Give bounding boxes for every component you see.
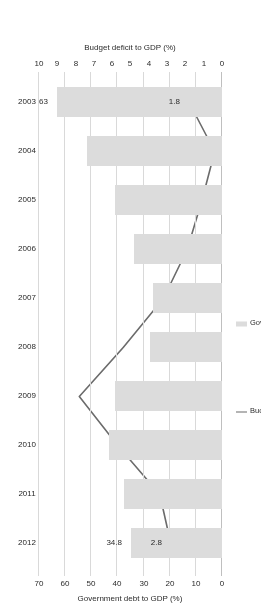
- data-label-budget-deficit-2012: 2.8: [151, 539, 162, 548]
- combo-chart: Government debt to GDP (%) Budget defici…: [0, 0, 261, 606]
- data-label-government-debt-2012: 34.8: [106, 539, 122, 548]
- tick-government-debt-10: 10: [191, 580, 200, 589]
- data-label-budget-deficit-2003: 1.8: [169, 98, 180, 107]
- tick-budget-deficit-10: 10: [35, 60, 44, 69]
- bar-2004: [87, 137, 222, 167]
- category-label-2008: 2008: [18, 343, 36, 352]
- category-label-2009: 2009: [18, 392, 36, 401]
- bar-2009: [115, 382, 222, 412]
- tick-budget-deficit-2: 2: [183, 60, 187, 69]
- data-label-government-debt-2003: 63: [39, 98, 48, 107]
- tick-budget-deficit-8: 8: [73, 60, 77, 69]
- legend-label-government-debt: Government debt to GDP (%): [250, 319, 261, 328]
- legend-line-icon: [236, 411, 247, 412]
- legend-swatch-bar-icon: [236, 321, 247, 326]
- category-label-2010: 2010: [18, 441, 36, 450]
- category-label-2011: 2011: [18, 490, 35, 499]
- tick-budget-deficit-7: 7: [92, 60, 96, 69]
- legend-entry-budget-deficit: Budget deficit to GDP (%): [236, 407, 261, 416]
- category-label-2005: 2005: [18, 196, 36, 205]
- bar-2006: [134, 235, 222, 265]
- category-label-2006: 2006: [18, 245, 36, 254]
- category-label-2004: 2004: [18, 147, 36, 156]
- tick-government-debt-0: 0: [220, 580, 224, 589]
- tick-government-debt-60: 60: [61, 580, 70, 589]
- bar-2005: [115, 186, 222, 216]
- chart-screenshot: Government debt to GDP (%) Budget defici…: [0, 0, 261, 606]
- category-label-2003: 2003: [18, 98, 36, 107]
- tick-budget-deficit-5: 5: [128, 60, 132, 69]
- tick-budget-deficit-6: 6: [110, 60, 114, 69]
- bar-2012: [131, 529, 222, 559]
- bar-2007: [153, 284, 222, 314]
- tick-government-debt-50: 50: [87, 580, 96, 589]
- bar-2010: [109, 431, 222, 461]
- tick-budget-deficit-4: 4: [147, 60, 151, 69]
- bar-2008: [150, 333, 222, 363]
- tick-government-debt-70: 70: [35, 580, 44, 589]
- category-label-2007: 2007: [18, 294, 36, 303]
- axis-title-government-debt: Government debt to GDP (%): [78, 595, 183, 604]
- rotated-chart-wrapper: Government debt to GDP (%) Budget defici…: [0, 0, 261, 606]
- gridline: [64, 72, 65, 576]
- tick-budget-deficit-3: 3: [165, 60, 169, 69]
- bar-2011: [124, 480, 222, 510]
- tick-government-debt-40: 40: [113, 580, 122, 589]
- tick-government-debt-30: 30: [139, 580, 148, 589]
- axis-title-budget-deficit: Budget deficit to GDP (%): [85, 44, 176, 53]
- legend-entry-government-debt: Government debt to GDP (%): [236, 319, 261, 328]
- plot-area: [39, 78, 222, 568]
- bar-2003: [57, 88, 222, 118]
- tick-government-debt-20: 20: [165, 580, 174, 589]
- tick-budget-deficit-9: 9: [55, 60, 59, 69]
- tick-budget-deficit-1: 1: [201, 60, 205, 69]
- gridline: [38, 72, 39, 576]
- category-label-2012: 2012: [18, 539, 36, 548]
- tick-budget-deficit-0: 0: [220, 60, 224, 69]
- legend-label-budget-deficit: Budget deficit to GDP (%): [250, 407, 261, 416]
